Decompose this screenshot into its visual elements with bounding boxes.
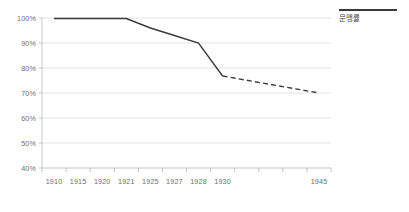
y-tick-label-40: 40% [21, 164, 36, 173]
x-tick-marks [42, 168, 331, 172]
legend-swatch-line [339, 9, 397, 11]
y-tick-label-50: 50% [21, 139, 36, 148]
x-tick-label-1925: 1925 [142, 177, 159, 186]
x-tick-label-1910: 1910 [46, 177, 63, 186]
x-tick-label-1920: 1920 [94, 177, 111, 186]
gridlines [42, 18, 331, 143]
line-chart: 100% 90% 80% 70% 60% 50% 40% 1910 [0, 0, 409, 212]
chart-legend: 문맹률 [339, 9, 405, 23]
legend-label: 문맹률 [339, 15, 405, 23]
y-tick-label-90: 90% [21, 39, 36, 48]
y-tick-marks [39, 18, 42, 168]
series-line-solid [54, 19, 223, 77]
y-tick-label-70: 70% [21, 89, 36, 98]
chart-plot-area: 100% 90% 80% 70% 60% 50% 40% 1910 [0, 0, 409, 212]
series-line-dashed [223, 76, 319, 93]
x-tick-label-1928: 1928 [190, 177, 207, 186]
y-tick-label-80: 80% [21, 64, 36, 73]
x-axis-labels: 1910 1915 1920 1921 1925 1927 1928 1930 … [46, 177, 328, 186]
x-tick-label-1930: 1930 [214, 177, 231, 186]
y-tick-label-60: 60% [21, 114, 36, 123]
x-tick-label-1945: 1945 [311, 177, 328, 186]
y-tick-label-100: 100% [17, 14, 36, 23]
x-tick-label-1927: 1927 [166, 177, 183, 186]
x-tick-label-1921: 1921 [118, 177, 135, 186]
y-axis-labels: 100% 90% 80% 70% 60% 50% 40% [17, 14, 36, 173]
x-tick-label-1915: 1915 [70, 177, 87, 186]
